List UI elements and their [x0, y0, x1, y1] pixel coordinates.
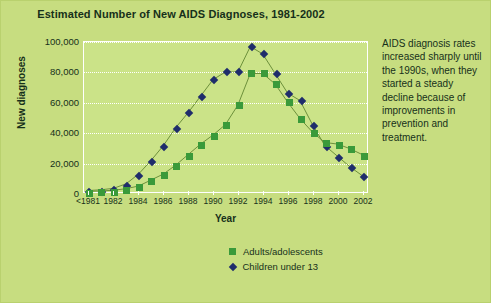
plot-area: [83, 41, 368, 193]
data-point-marker: [223, 122, 230, 129]
data-point-marker: [323, 140, 330, 147]
y-tick-label: 60,000: [23, 96, 79, 107]
x-tick-mark: [88, 191, 89, 195]
x-tick-mark: [138, 191, 139, 195]
x-tick-mark: [313, 191, 314, 195]
y-axis-tick-labels: 020,00040,00060,00080,000100,000: [21, 41, 79, 193]
x-tick-label: 1986: [154, 196, 173, 206]
x-tick-label: 1992: [229, 196, 248, 206]
y-tick-label: 40,000: [23, 127, 79, 138]
side-caption: AIDS diagnosis rates increased sharply u…: [382, 37, 482, 144]
x-tick-label: 2002: [354, 196, 373, 206]
gridline: [84, 103, 367, 104]
series-lines: [84, 42, 367, 192]
x-tick-label: 1998: [304, 196, 323, 206]
gridline: [84, 164, 367, 165]
x-tick-mark: [238, 191, 239, 195]
data-point-marker: [198, 142, 205, 149]
x-tick-mark: [213, 191, 214, 195]
data-point-marker: [173, 163, 180, 170]
legend-diamond-icon: [228, 262, 236, 270]
x-tick-label: 2000: [329, 196, 348, 206]
x-tick-label: 1982: [104, 196, 123, 206]
x-tick-mark: [288, 191, 289, 195]
data-point-marker: [236, 102, 243, 109]
legend-item-label: Children under 13: [243, 261, 319, 272]
legend-item-label: Adults/adolescents: [243, 246, 323, 257]
data-point-marker: [273, 81, 280, 88]
data-point-marker: [348, 146, 355, 153]
gridline: [84, 42, 367, 43]
data-point-marker: [136, 184, 143, 191]
data-point-marker: [148, 178, 155, 185]
x-tick-mark: [363, 191, 364, 195]
gridline: [84, 133, 367, 134]
legend-item: Adults/adolescents: [229, 246, 323, 257]
data-point-marker: [261, 70, 268, 77]
x-tick-mark: [338, 191, 339, 195]
x-tick-label: <1981: [76, 196, 100, 206]
data-point-marker: [361, 153, 368, 160]
plot-inner: [84, 42, 367, 192]
x-tick-label: 1988: [179, 196, 198, 206]
data-point-marker: [286, 99, 293, 106]
chart-title: Estimated Number of New AIDS Diagnoses, …: [1, 8, 361, 20]
y-tick-label: 80,000: [23, 66, 79, 77]
chart-legend: Adults/adolescentsChildren under 13: [229, 246, 323, 276]
x-tick-label: 1994: [254, 196, 273, 206]
data-point-marker: [248, 70, 255, 77]
x-axis-label: Year: [83, 213, 368, 224]
x-tick-label: 1996: [279, 196, 298, 206]
data-point-marker: [186, 153, 193, 160]
x-tick-mark: [188, 191, 189, 195]
x-tick-label: 1990: [204, 196, 223, 206]
y-tick-label: 0: [23, 188, 79, 199]
data-point-marker: [211, 133, 218, 140]
y-tick-label: 100,000: [23, 36, 79, 47]
data-point-marker: [311, 130, 318, 137]
x-tick-mark: [263, 191, 264, 195]
legend-square-icon: [229, 248, 236, 255]
data-point-marker: [161, 172, 168, 179]
legend-item: Children under 13: [229, 261, 323, 272]
chart-figure: Estimated Number of New AIDS Diagnoses, …: [0, 0, 491, 303]
x-tick-mark: [163, 191, 164, 195]
data-point-marker: [298, 116, 305, 123]
x-axis-tick-labels: <198119821984198619881990199219941996199…: [83, 194, 368, 210]
x-tick-mark: [113, 191, 114, 195]
y-tick-label: 20,000: [23, 157, 79, 168]
data-point-marker: [336, 142, 343, 149]
x-tick-label: 1984: [129, 196, 148, 206]
